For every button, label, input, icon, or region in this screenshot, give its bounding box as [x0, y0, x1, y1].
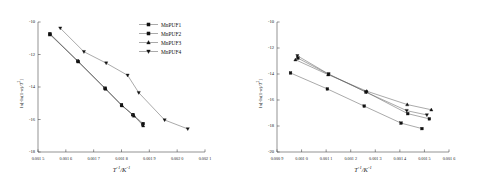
legend-label: MnPUF2	[159, 31, 181, 37]
figure-root: ln[-ln(1-α)/T2] T-1/K-1 MnPUF1MnPUF2MnPU…	[0, 0, 478, 192]
legend-item-MnPUF2: MnPUF2	[138, 29, 181, 38]
x-tick-label: 0.001 1	[317, 156, 335, 161]
y-tick-label: -12	[261, 45, 274, 50]
x-tick-label: 0.001 5	[415, 156, 433, 161]
x-tick-label: 0.001 9	[140, 156, 158, 161]
plot-svg-left	[0, 0, 239, 192]
y-tick-label: -12	[22, 52, 35, 57]
data-point-MnPUF1	[363, 105, 366, 108]
chart-panel-right: ln[-ln(1-α)/T2] T-1/K-1 MnPUF1MnPUF2MnPU…	[239, 0, 478, 192]
plot-area-left	[0, 0, 239, 192]
y-tick-label: -10	[22, 19, 35, 24]
series-line-MnPUF1	[291, 73, 422, 129]
data-point-MnPUF4	[126, 74, 129, 77]
series-line-MnPUF2	[298, 58, 429, 119]
x-axis-label-right: T-1/K-1	[277, 166, 449, 173]
plot-area-right	[239, 0, 478, 192]
legend-marker-triangle-up-icon	[138, 38, 159, 47]
legend-marker-square-icon	[138, 29, 159, 38]
x-tick-label: 0.001 2	[342, 156, 360, 161]
x-tick-label: 0.001 8	[113, 156, 131, 161]
x-tick-label: 0.002 0	[168, 156, 186, 161]
y-tick-label: -16	[261, 97, 274, 102]
x-tick-label: 0.000 9	[268, 156, 286, 161]
x-tick-label: 0.001 5	[29, 156, 47, 161]
x-tick-label: 0.001 0	[293, 156, 311, 161]
chart-panel-left: ln[-ln(1-α)/T2] T-1/K-1 MnPUF1MnPUF2MnPU…	[0, 0, 239, 192]
x-tick-label: 0.001 7	[85, 156, 103, 161]
legend-marker-square-icon	[138, 20, 159, 29]
series-line-MnPUF1	[50, 34, 143, 124]
data-point-MnPUF1	[421, 127, 424, 130]
y-tick-label: -18	[261, 123, 274, 128]
legend-item-MnPUF1: MnPUF1	[138, 20, 181, 29]
data-point-MnPUF4	[105, 62, 108, 65]
data-point-MnPUF1	[326, 88, 329, 91]
x-tick-label: 0.001 6	[440, 156, 458, 161]
y-axis-label-right: ln[-ln(1-α)/T2]	[258, 79, 263, 108]
y-tick-label: -16	[22, 117, 35, 122]
data-point-MnPUF4	[425, 114, 428, 117]
data-point-MnPUF2	[406, 112, 409, 115]
series-line-MnPUF4	[297, 56, 427, 115]
data-point-MnPUF1	[289, 72, 292, 75]
data-point-MnPUF2	[428, 118, 431, 121]
x-tick-label: 0.001 3	[366, 156, 384, 161]
legend-label: MnPUF4	[159, 49, 181, 55]
legend-label: MnPUF1	[159, 22, 181, 28]
data-point-MnPUF4	[186, 128, 189, 131]
data-point-MnPUF4	[82, 50, 85, 53]
series-line-MnPUF3	[295, 60, 431, 110]
y-tick-label: -14	[22, 84, 35, 89]
x-tick-label: 0.002 1	[196, 156, 214, 161]
y-tick-label: -14	[261, 71, 274, 76]
y-tick-label: -10	[261, 19, 274, 24]
data-point-MnPUF1	[400, 122, 403, 125]
plot-svg-right	[239, 0, 478, 192]
legend-label: MnPUF3	[159, 40, 181, 46]
series-line-MnPUF3	[50, 34, 143, 126]
legend-item-MnPUF4: MnPUF4	[138, 47, 181, 56]
x-tick-label: 0.001 4	[391, 156, 409, 161]
x-axis-label-left: T-1/K-1	[38, 166, 205, 173]
legend-marker-triangle-down-icon	[138, 47, 159, 56]
y-tick-label: -18	[22, 149, 35, 154]
legend-left: MnPUF1MnPUF2MnPUF3MnPUF4	[138, 20, 181, 56]
y-tick-label: -20	[261, 149, 274, 154]
legend-item-MnPUF3: MnPUF3	[138, 38, 181, 47]
data-point-MnPUF2	[297, 57, 300, 60]
x-tick-label: 0.001 6	[57, 156, 75, 161]
